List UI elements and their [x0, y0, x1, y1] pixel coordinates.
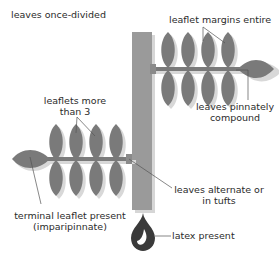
label-terminal-leaflet: terminal leaflet present (imparipinnate): [14, 210, 126, 232]
label-line: compound: [185, 112, 279, 123]
label-line: in tufts: [166, 195, 272, 206]
label-leaflet-margins-entire: leaflet margins entire: [169, 14, 271, 25]
stem: [132, 32, 155, 213]
label-line: than 3: [30, 106, 120, 117]
petiole-base-upper: [150, 64, 156, 74]
label-leaves-once-divided: leaves once-divided: [11, 9, 106, 20]
label-line: (imparipinnate): [14, 221, 126, 232]
label-latex-present: latex present: [172, 230, 235, 241]
rachis-upper: [150, 67, 250, 71]
label-line: terminal leaflet present: [14, 210, 126, 221]
lower-left-compound-leaf: [12, 124, 136, 199]
latex-drop-icon: [131, 213, 155, 251]
label-leaves-pinnately-compound: leaves pinnately compound: [185, 101, 279, 123]
label-line: leaves pinnately: [185, 101, 279, 112]
label-leaves-alternate: leaves alternate or in tufts: [166, 184, 272, 206]
label-leaflets-more-than-3: leaflets more than 3: [30, 95, 120, 117]
upper-right-compound-leaf: [150, 32, 279, 109]
label-line: leaves alternate or: [166, 184, 272, 195]
label-line: leaflets more: [30, 95, 120, 106]
